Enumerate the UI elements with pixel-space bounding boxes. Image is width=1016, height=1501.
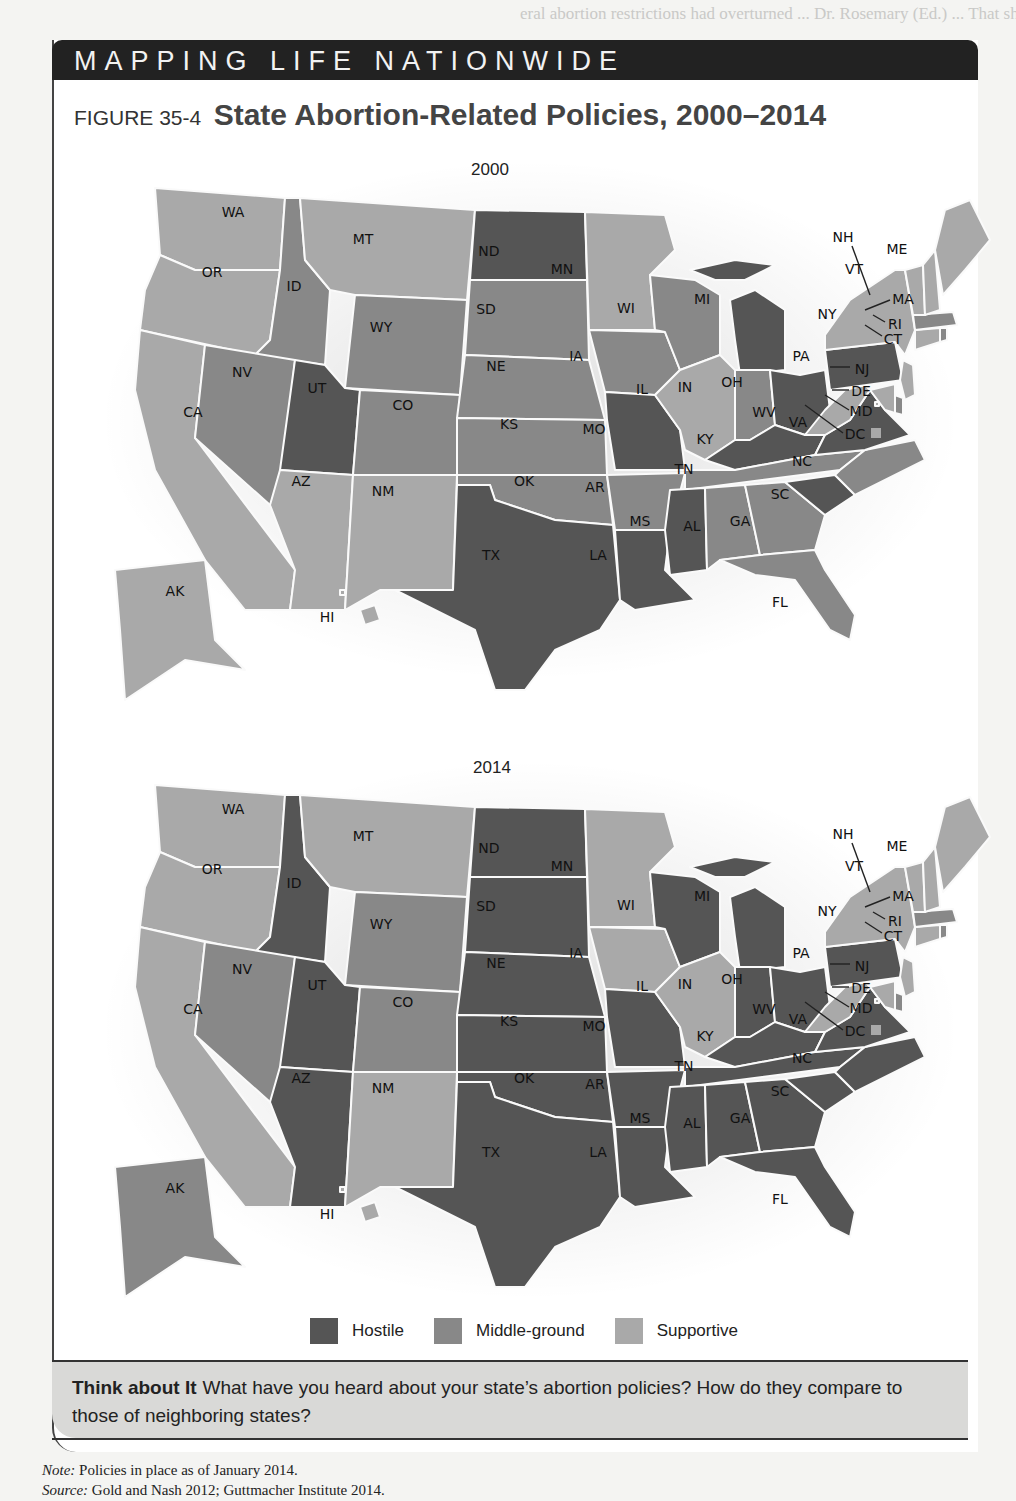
state-label-mi: MI — [694, 888, 710, 904]
source-label: Source: — [42, 1482, 88, 1498]
state-label-nh: NH — [833, 826, 854, 842]
state-wy — [345, 892, 467, 992]
state-label-ny: NY — [817, 903, 836, 919]
state-label-mn: MN — [551, 261, 574, 277]
state-label-ak: AK — [166, 583, 186, 599]
think-about-it-heading: Think about It — [72, 1377, 197, 1398]
legend-swatch-middle-ground — [434, 1318, 462, 1344]
state-label-mn: MN — [551, 858, 574, 874]
state-label-ok: OK — [514, 1070, 535, 1086]
state-label-al: AL — [683, 518, 701, 534]
state-label-or: OR — [202, 264, 223, 280]
state-label-ut: UT — [308, 380, 327, 396]
state-nj — [900, 957, 915, 997]
state-label-nc: NC — [792, 1050, 812, 1066]
state-label-wa: WA — [222, 801, 245, 817]
legend-item-supportive: Supportive — [615, 1318, 738, 1344]
background-page-text: eral abortion restrictions had overturne… — [0, 0, 1016, 40]
source-text: Gold and Nash 2012; Guttmacher Institute… — [92, 1482, 385, 1498]
state-label-sc: SC — [771, 1083, 790, 1099]
state-label-nm: NM — [372, 483, 395, 499]
state-label-tn: TN — [673, 461, 693, 477]
state-label-fl: FL — [772, 594, 788, 610]
state-label-md: MD — [850, 1000, 873, 1016]
figure-notes: Note: Policies in place as of January 20… — [42, 1460, 385, 1500]
state-label-ar: AR — [585, 479, 605, 495]
state-label-il: IL — [636, 978, 648, 994]
source-line: Source: Gold and Nash 2012; Guttmacher I… — [42, 1480, 385, 1500]
legend-label-supportive: Supportive — [657, 1321, 738, 1341]
state-label-dc: DC — [845, 426, 866, 442]
state-de — [895, 992, 903, 1012]
state-dc — [875, 402, 879, 406]
state-label-de: DE — [851, 980, 871, 996]
state-label-nd: ND — [478, 840, 499, 856]
state-label-ia: IA — [569, 348, 583, 364]
state-dc — [875, 999, 879, 1003]
state-label-wy: WY — [370, 319, 393, 335]
state-label-de: DE — [851, 383, 871, 399]
state-label-id: ID — [287, 875, 302, 891]
state-ne — [457, 952, 605, 1017]
state-label-ri: RI — [888, 913, 902, 929]
state-label-nm: NM — [372, 1080, 395, 1096]
dc-swatch — [871, 1025, 881, 1035]
state-label-oh: OH — [721, 971, 743, 987]
state-label-ct: CT — [884, 331, 903, 347]
state-label-hi: HI — [320, 1206, 335, 1222]
state-label-wv: WV — [752, 1001, 776, 1017]
state-label-az: AZ — [291, 473, 310, 489]
state-ne — [457, 355, 605, 420]
state-label-ms: MS — [630, 1110, 651, 1126]
state-label-la: LA — [589, 1144, 607, 1160]
state-label-id: ID — [287, 278, 302, 294]
state-label-ky: KY — [696, 431, 714, 447]
state-label-al: AL — [683, 1115, 701, 1131]
legend-swatch-supportive — [615, 1318, 643, 1344]
think-about-it-box: Think about ItWhat have you heard about … — [52, 1360, 968, 1438]
state-label-or: OR — [202, 861, 223, 877]
us-map-2000: WAORCAIDNVMTWYUTCOAZNMNDSDNEKSOKTXMNIAMO… — [95, 170, 955, 710]
figure-title: FIGURE 35-4 State Abortion-Related Polic… — [74, 98, 826, 132]
state-label-la: LA — [589, 547, 607, 563]
map-legend: Hostile Middle-ground Supportive — [310, 1318, 768, 1344]
state-label-dc: DC — [845, 1023, 866, 1039]
state-de — [895, 395, 903, 415]
state-label-va: VA — [789, 1011, 808, 1027]
state-label-nj: NJ — [855, 361, 870, 377]
state-label-nd: ND — [478, 243, 499, 259]
state-label-in: IN — [678, 976, 693, 992]
state-label-ca: CA — [183, 1001, 203, 1017]
state-label-ma: MA — [892, 291, 914, 307]
state-label-ga: GA — [730, 513, 751, 529]
legend-item-hostile: Hostile — [310, 1318, 404, 1344]
state-label-tn: TN — [673, 1058, 693, 1074]
legend-label-hostile: Hostile — [352, 1321, 404, 1341]
us-map-svg-2014: WAORCAIDNVMTWYUTCOAZNMNDSDNEKSOKTXMNIAMO… — [95, 767, 955, 1307]
state-label-ca: CA — [183, 404, 203, 420]
state-label-hi: HI — [320, 609, 335, 625]
state-label-ks: KS — [500, 416, 518, 432]
legend-swatch-hostile — [310, 1318, 338, 1344]
state-label-ct: CT — [884, 928, 903, 944]
state-label-mt: MT — [353, 828, 374, 844]
state-label-ks: KS — [500, 1013, 518, 1029]
state-label-ok: OK — [514, 473, 535, 489]
us-map-2014: WAORCAIDNVMTWYUTCOAZNMNDSDNEKSOKTXMNIAMO… — [95, 767, 955, 1307]
state-label-ma: MA — [892, 888, 914, 904]
state-label-nh: NH — [833, 229, 854, 245]
state-label-mi: MI — [694, 291, 710, 307]
state-label-me: ME — [887, 838, 908, 854]
state-label-md: MD — [850, 403, 873, 419]
state-label-ak: AK — [166, 1180, 186, 1196]
state-label-az: AZ — [291, 1070, 310, 1086]
state-label-mo: MO — [582, 421, 605, 437]
state-label-va: VA — [789, 414, 808, 430]
state-label-pa: PA — [792, 945, 810, 961]
state-label-wy: WY — [370, 916, 393, 932]
state-label-wi: WI — [617, 897, 635, 913]
state-label-nv: NV — [232, 961, 252, 977]
state-label-nv: NV — [232, 364, 252, 380]
legend-item-middle-ground: Middle-ground — [434, 1318, 585, 1344]
state-wa — [155, 785, 285, 867]
